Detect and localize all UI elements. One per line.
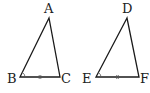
vertex-label-c: C <box>61 71 71 86</box>
vertex-label-e: E <box>82 71 92 86</box>
geometry-diagram: A B C D E F <box>0 0 150 93</box>
vertex-label-b: B <box>7 71 17 86</box>
triangle-abc-outline <box>20 18 60 77</box>
triangle-abc: A B C <box>7 1 71 86</box>
triangle-def-outline <box>96 18 139 77</box>
vertex-label-d: D <box>122 1 132 16</box>
angle-e-arc-icon <box>98 73 101 77</box>
triangle-def: D E F <box>82 1 149 86</box>
angle-b-arc-icon <box>22 73 25 78</box>
vertex-label-f: F <box>140 71 149 86</box>
vertex-label-a: A <box>43 1 54 16</box>
